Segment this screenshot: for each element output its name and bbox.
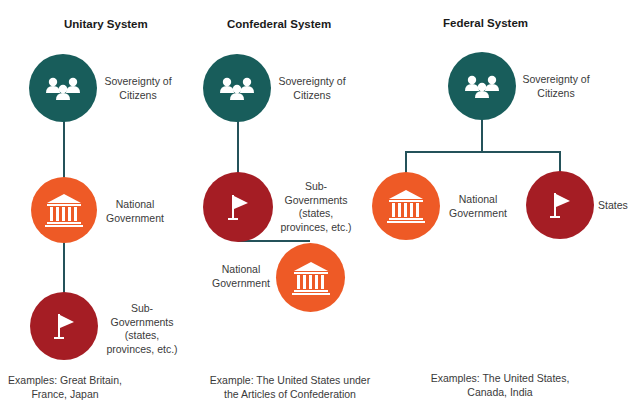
federal-citizens-node	[448, 52, 516, 120]
confederal-sub-label: Sub- Governments (states, provinces, etc…	[275, 180, 357, 234]
people-group-icon	[462, 71, 502, 101]
unitary-example: Examples: Great Britain, France, Japan	[0, 374, 130, 401]
unitary-title: Unitary System	[64, 18, 148, 30]
capitol-building-icon	[386, 188, 426, 224]
unitary-national-label: National Government	[100, 198, 170, 225]
confederal-national-label: National Government	[206, 263, 276, 290]
connector-line	[405, 151, 561, 153]
federal-states-label: States	[598, 199, 638, 213]
people-group-icon	[217, 73, 257, 103]
federal-title: Federal System	[443, 17, 528, 29]
federal-example: Examples: The United States, Canada, Ind…	[425, 372, 575, 399]
confederal-national-node	[276, 243, 345, 312]
unitary-citizens-node	[29, 54, 97, 122]
federal-states-node	[526, 171, 594, 239]
confederal-title: Confederal System	[227, 18, 331, 30]
confederal-sub-node	[203, 172, 273, 242]
people-group-icon	[43, 73, 83, 103]
connector-line	[481, 118, 483, 152]
federal-national-label: National Government	[443, 193, 513, 220]
unitary-sub-node	[30, 292, 98, 360]
flag-icon	[545, 190, 575, 220]
flag-icon	[223, 192, 253, 222]
capitol-building-icon	[44, 192, 84, 228]
unitary-national-node	[31, 177, 97, 243]
unitary-citizens-label: Sovereignty of Citizens	[100, 75, 176, 102]
federal-citizens-label: Sovereignty of Citizens	[518, 73, 594, 100]
flag-icon	[49, 311, 79, 341]
capitol-building-icon	[291, 260, 331, 296]
federal-national-node	[372, 172, 440, 240]
confederal-citizens-node	[203, 54, 271, 122]
confederal-example: Example: The United States under the Art…	[200, 374, 380, 401]
connector-line	[237, 120, 239, 175]
confederal-citizens-label: Sovereignty of Citizens	[274, 75, 350, 102]
connector-line	[559, 151, 561, 173]
unitary-sub-label: Sub- Governments (states, provinces, etc…	[102, 302, 182, 356]
